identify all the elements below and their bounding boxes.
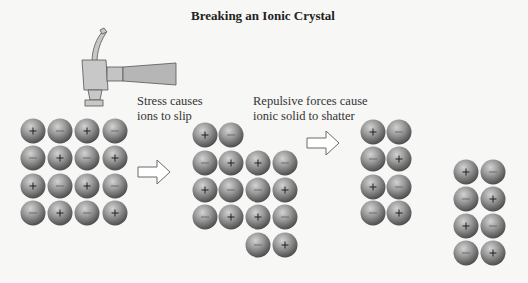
anion bbox=[361, 147, 386, 172]
cation bbox=[246, 205, 271, 230]
anion bbox=[21, 201, 46, 226]
ion-layer bbox=[21, 119, 506, 266]
cation bbox=[219, 151, 244, 176]
cation bbox=[103, 201, 128, 226]
anion bbox=[21, 146, 46, 171]
cation bbox=[454, 160, 479, 185]
cation bbox=[246, 151, 271, 176]
anion bbox=[387, 175, 412, 200]
cation bbox=[387, 147, 412, 172]
cation bbox=[21, 119, 46, 144]
ionic-crystal-diagram bbox=[0, 0, 528, 283]
anion bbox=[481, 214, 506, 239]
right-arrow-icon bbox=[307, 131, 339, 155]
cation bbox=[481, 241, 506, 266]
cation bbox=[193, 123, 218, 148]
intact-crystal bbox=[21, 119, 128, 226]
anion bbox=[219, 123, 244, 148]
anion bbox=[103, 119, 128, 144]
right-arrow-icon bbox=[138, 160, 170, 184]
anion bbox=[273, 151, 298, 176]
cation bbox=[219, 205, 244, 230]
anion bbox=[273, 205, 298, 230]
anion bbox=[48, 174, 73, 199]
anion bbox=[103, 174, 128, 199]
anion bbox=[193, 205, 218, 230]
anion bbox=[193, 151, 218, 176]
anion bbox=[246, 178, 271, 203]
cation bbox=[361, 120, 386, 145]
cation bbox=[21, 174, 46, 199]
cation bbox=[454, 214, 479, 239]
anion bbox=[361, 201, 386, 226]
cation bbox=[361, 175, 386, 200]
anion bbox=[454, 187, 479, 212]
cation bbox=[273, 178, 298, 203]
anion bbox=[387, 120, 412, 145]
cation bbox=[481, 187, 506, 212]
anion bbox=[48, 119, 73, 144]
anion bbox=[75, 201, 100, 226]
anion bbox=[246, 233, 271, 258]
anion bbox=[75, 146, 100, 171]
shattered-fragment-1 bbox=[361, 120, 412, 226]
cation bbox=[193, 178, 218, 203]
cation bbox=[48, 146, 73, 171]
cation bbox=[273, 233, 298, 258]
cation bbox=[75, 119, 100, 144]
cation bbox=[103, 146, 128, 171]
cation bbox=[48, 201, 73, 226]
slipped-crystal bbox=[193, 123, 298, 258]
cation bbox=[75, 174, 100, 199]
shattered-fragment-2 bbox=[454, 160, 506, 266]
anion bbox=[481, 160, 506, 185]
cation bbox=[387, 201, 412, 226]
hammer-icon bbox=[82, 28, 176, 106]
anion bbox=[454, 241, 479, 266]
anion bbox=[219, 178, 244, 203]
